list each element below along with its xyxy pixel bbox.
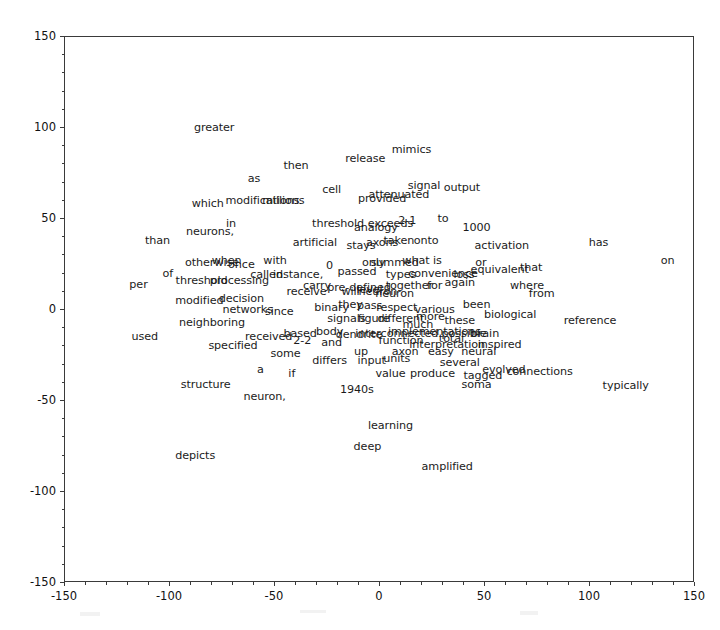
word-label: total — [439, 334, 464, 345]
word-label: per — [129, 279, 147, 290]
x-tick-minor — [547, 582, 548, 585]
word-label: produce — [410, 368, 455, 379]
word-label: a — [257, 364, 264, 375]
y-tick — [60, 582, 64, 583]
word-label: from — [529, 288, 555, 299]
x-tick-label: 0 — [375, 589, 382, 603]
x-tick-label: -50 — [265, 589, 284, 603]
x-tick-minor — [631, 582, 632, 585]
word-label: as — [248, 173, 260, 184]
x-tick-minor — [505, 582, 506, 585]
x-tick-minor — [400, 582, 401, 585]
word-label: biological — [484, 310, 536, 321]
y-tick — [60, 491, 64, 492]
word-label: then — [283, 161, 308, 172]
word-label: amplified — [422, 461, 473, 472]
x-tick — [484, 582, 485, 586]
x-tick — [64, 582, 65, 586]
word-label: greater — [194, 122, 234, 133]
x-tick-minor — [316, 582, 317, 585]
word-label: value — [375, 368, 405, 379]
y-tick-minor — [62, 200, 65, 201]
word-label: and — [321, 337, 342, 348]
word-label: structure — [181, 379, 231, 390]
y-tick-minor — [62, 109, 65, 110]
y-tick-label: -50 — [37, 393, 56, 407]
y-tick-minor — [62, 345, 65, 346]
y-tick — [60, 36, 64, 37]
word-label: of — [163, 268, 174, 279]
word-label: used — [132, 332, 159, 343]
y-tick-minor — [62, 473, 65, 474]
word-label: release — [345, 153, 385, 164]
word-label: stays — [347, 241, 376, 252]
y-tick-minor — [62, 291, 65, 292]
word-label: threshold — [176, 275, 228, 286]
x-tick-minor — [127, 582, 128, 585]
word-label: millions — [262, 195, 304, 206]
y-tick-minor — [62, 364, 65, 365]
y-tick-minor — [62, 455, 65, 456]
word-label: if — [288, 368, 295, 379]
y-tick-minor — [62, 236, 65, 237]
word-label: 0 — [326, 261, 333, 272]
x-tick-minor — [253, 582, 254, 585]
x-tick-minor — [85, 582, 86, 585]
figure-canvas: greatermimicsreleasethenasoutputsignalce… — [0, 0, 720, 630]
y-tick-minor — [62, 564, 65, 565]
x-tick-minor — [295, 582, 296, 585]
word-label: mimics — [392, 144, 431, 155]
y-tick — [60, 309, 64, 310]
word-label: 2-2 — [293, 335, 311, 346]
word-label: 1940s — [340, 384, 374, 395]
y-tick-label: 0 — [49, 302, 56, 316]
y-tick-minor — [62, 273, 65, 274]
word-label: units — [383, 354, 410, 365]
word-label: pre-defined — [327, 283, 390, 294]
word-label: artificial — [293, 237, 337, 248]
word-label: to — [437, 213, 448, 224]
x-tick-minor — [652, 582, 653, 585]
word-label: deep — [354, 441, 382, 452]
y-tick-minor — [62, 254, 65, 255]
word-label: cell — [322, 184, 341, 195]
y-tick-minor — [62, 382, 65, 383]
word-label: depicts — [175, 450, 215, 461]
y-tick — [60, 127, 64, 128]
x-tick — [379, 582, 380, 586]
x-tick-minor — [232, 582, 233, 585]
word-label: neuron, — [243, 392, 285, 403]
plot-area: greatermimicsreleasethenasoutputsignalce… — [64, 36, 694, 582]
word-label: onto — [414, 235, 439, 246]
x-tick-minor — [190, 582, 191, 585]
x-tick-minor — [106, 582, 107, 585]
x-tick — [274, 582, 275, 586]
y-tick-label: -100 — [30, 484, 56, 498]
y-tick-minor — [62, 182, 65, 183]
word-label: threshold — [312, 219, 364, 230]
scan-noise — [80, 612, 100, 616]
word-label: output — [444, 182, 480, 193]
y-tick-minor — [62, 418, 65, 419]
y-tick-label: -150 — [30, 575, 56, 589]
x-tick-minor — [358, 582, 359, 585]
word-label: signals — [327, 313, 365, 324]
word-label: 1000 — [463, 222, 491, 233]
word-label: neurons, — [186, 226, 234, 237]
x-tick-label: -100 — [156, 589, 182, 603]
y-tick-label: 50 — [41, 211, 56, 225]
scan-noise — [520, 611, 538, 615]
word-label: passed — [337, 266, 376, 277]
word-label: input — [357, 355, 385, 366]
x-tick-label: 150 — [683, 589, 705, 603]
word-label: specified — [208, 341, 257, 352]
y-tick-minor — [62, 546, 65, 547]
y-tick-minor — [62, 436, 65, 437]
x-tick-minor — [421, 582, 422, 585]
y-tick-minor — [62, 145, 65, 146]
x-tick — [169, 582, 170, 586]
x-tick-minor — [337, 582, 338, 585]
word-label: differs — [312, 355, 347, 366]
word-label: typically — [603, 381, 649, 392]
y-tick-minor — [62, 527, 65, 528]
